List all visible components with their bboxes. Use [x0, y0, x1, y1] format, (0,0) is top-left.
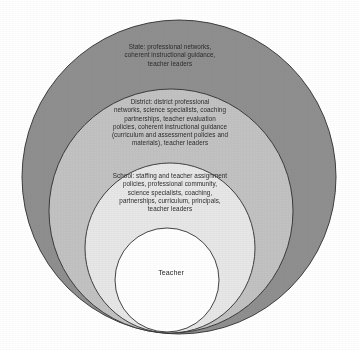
circle-teacher: [115, 228, 219, 332]
nested-circles-diagram: State: professional networks, coherent i…: [0, 0, 359, 350]
nested-circles-svg: [0, 0, 359, 350]
